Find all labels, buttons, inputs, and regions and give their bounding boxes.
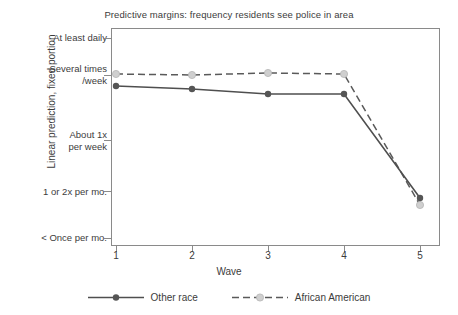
legend-item-other-race: Other race <box>88 292 198 303</box>
legend-item-african-american: African American <box>232 292 371 303</box>
legend-label-other-race: Other race <box>151 292 198 303</box>
x-tick-label-4: 4 <box>332 250 356 261</box>
y-tick-mark-4 <box>104 75 111 76</box>
chart-title: Predictive margins: frequency residents … <box>0 9 458 20</box>
x-tick-label-2: 2 <box>180 250 204 261</box>
x-tick-label-5: 5 <box>408 250 432 261</box>
data-point-african-american-w5 <box>416 201 423 208</box>
data-point-other-race-w2 <box>189 86 195 92</box>
data-point-african-american-w1 <box>112 70 119 77</box>
chart-figure: Predictive margins: frequency residents … <box>0 0 458 315</box>
legend-label-african-american: African American <box>295 292 371 303</box>
plot-area <box>111 28 440 246</box>
data-point-african-american-w2 <box>188 71 195 78</box>
y-tick-label-1-or-2x-per-mo: 1 or 2x per mo. <box>3 186 107 198</box>
y-tick-mark-2 <box>104 191 111 192</box>
x-tick-label-3: 3 <box>256 250 280 261</box>
x-tick-label-1: 1 <box>104 250 128 261</box>
data-point-african-american-w4 <box>340 70 347 77</box>
data-point-african-american-w3 <box>264 69 271 76</box>
y-tick-mark-5 <box>104 38 111 39</box>
series-line-other-race <box>116 86 420 198</box>
y-axis-title: Linear prediction, fixed portion <box>46 0 57 207</box>
data-point-other-race-w4 <box>341 91 347 97</box>
data-point-other-race-w3 <box>265 91 271 97</box>
chart-legend: Other race African American <box>0 286 458 308</box>
x-axis-title: Wave <box>0 266 458 277</box>
y-tick-label-at-least-daily: At least daily <box>3 32 107 44</box>
y-tick-label-about-1x-per-week: About 1x per week <box>3 129 107 152</box>
legend-key-african-american <box>232 292 288 303</box>
series-canvas <box>111 28 440 246</box>
legend-key-other-race <box>88 292 144 303</box>
y-tick-mark-3 <box>104 140 111 141</box>
y-tick-label-less-once-per-mo: < Once per mo. <box>3 232 107 244</box>
y-tick-mark-1 <box>104 238 111 239</box>
data-point-other-race-w5 <box>417 195 423 201</box>
y-tick-label-several-times-week: Several times /week <box>3 63 107 86</box>
data-point-other-race-w1 <box>113 83 119 89</box>
